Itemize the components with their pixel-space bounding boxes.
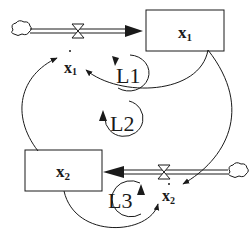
valve-icon xyxy=(72,24,84,38)
stock-flow-diagram: x1 x1 x2 x2 L1 L2 xyxy=(0,0,252,240)
stock-x1[interactable]: x1 xyxy=(146,10,224,51)
loop-l1: L1 xyxy=(112,55,149,91)
cloud-source-icon xyxy=(229,163,249,178)
valve-icon xyxy=(158,165,170,179)
flow-pipe-x1 xyxy=(12,21,143,52)
loop-arrow-icon xyxy=(99,110,107,121)
flow-arrowhead-icon xyxy=(125,25,143,37)
flow-dot xyxy=(168,183,170,185)
cloud-source-icon xyxy=(12,21,32,36)
loop-l2: L2 xyxy=(99,101,143,136)
loop-l2-label: L2 xyxy=(110,111,134,136)
loop-l1-label: L1 xyxy=(116,63,140,88)
flow-dot xyxy=(69,50,71,52)
link-x1-to-flowx1 xyxy=(86,50,208,88)
link-x1-to-flowx2 xyxy=(183,50,232,184)
flow-arrowhead-icon xyxy=(103,166,124,178)
loop-l3-label: L3 xyxy=(108,188,132,213)
loop-arrow-icon xyxy=(137,184,145,195)
link-x2-to-flowx1 xyxy=(22,58,57,151)
loop-l3: L3 xyxy=(108,181,145,217)
stock-x2[interactable]: x2 xyxy=(25,150,102,191)
flow-x1-label: x1 xyxy=(64,59,77,77)
flow-x2-label: x2 xyxy=(162,187,175,206)
